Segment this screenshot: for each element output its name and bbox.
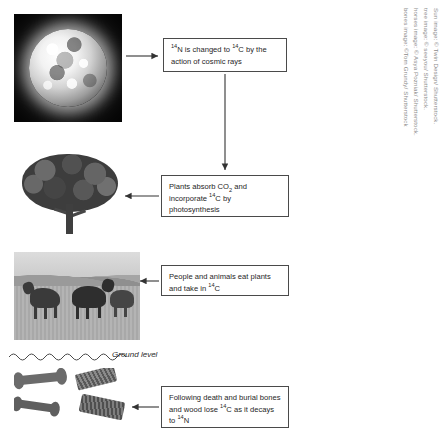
credit-line-tree: tree image: © seeyou/ Shutterstock.	[423, 8, 430, 110]
horse-1	[30, 288, 60, 308]
box-plants-photosynthesis: Plants absorb CO2 and incorporate 14C by…	[161, 175, 289, 217]
horse-3	[110, 290, 134, 308]
bone-lower	[16, 399, 57, 412]
tree-photo	[14, 152, 132, 236]
horses-legs	[14, 306, 140, 320]
credit-line-horses: horses image: © Asya Pozniak/ Shuttersto…	[413, 8, 420, 136]
box-death-text: Following death and burial bones and woo…	[169, 393, 280, 425]
credit-line-sun: Sun image: © Twin Design/ Shutterstock.	[433, 8, 440, 124]
box-plants-text: Plants absorb CO2 and incorporate 14C by…	[169, 182, 247, 214]
credit-line-bones: bones image: ©Tom Grundy/ Shutterstock	[403, 8, 410, 127]
horses-photo	[14, 252, 140, 340]
image-credits: Sun image: © Twin Design/ Shutterstock. …	[396, 0, 442, 441]
box-people-animals-eat: People and animals eat plants and take i…	[161, 265, 289, 296]
box-people-text: People and animals eat plants and take i…	[169, 272, 271, 293]
diagram-canvas: Ground level 14N is changed to 14C by th…	[0, 0, 444, 441]
bones-photo	[14, 368, 140, 430]
tree-trunk	[66, 204, 73, 234]
box-nitrogen-to-carbon: 14N is changed to 14C by the action of c…	[163, 38, 287, 72]
ground-level-label: Ground level	[112, 350, 157, 359]
box-death-and-burial: Following death and burial bones and woo…	[161, 386, 289, 428]
box-nitrogen-text: 14N is changed to 14C by the action of c…	[171, 45, 267, 66]
sun-photo	[14, 14, 122, 122]
sun-surface-texture	[29, 29, 107, 107]
horse-2	[72, 286, 106, 308]
buried-wood-lower	[79, 394, 126, 421]
buried-wood-upper	[75, 368, 118, 391]
bone-upper	[18, 372, 63, 386]
